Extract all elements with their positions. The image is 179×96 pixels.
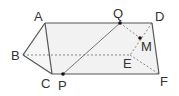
label-c: C: [41, 76, 50, 91]
point-p-marker: [61, 72, 65, 76]
label-q: Q: [113, 6, 123, 21]
label-f: F: [160, 74, 168, 89]
label-m: M: [141, 39, 152, 54]
label-p: P: [58, 78, 67, 93]
label-b: B: [11, 48, 20, 63]
prism-diagram: A B C P Q D M E F: [0, 0, 179, 96]
label-e: E: [123, 56, 132, 71]
point-q-marker: [118, 21, 122, 25]
label-d: D: [155, 9, 164, 24]
label-a: A: [34, 9, 43, 24]
